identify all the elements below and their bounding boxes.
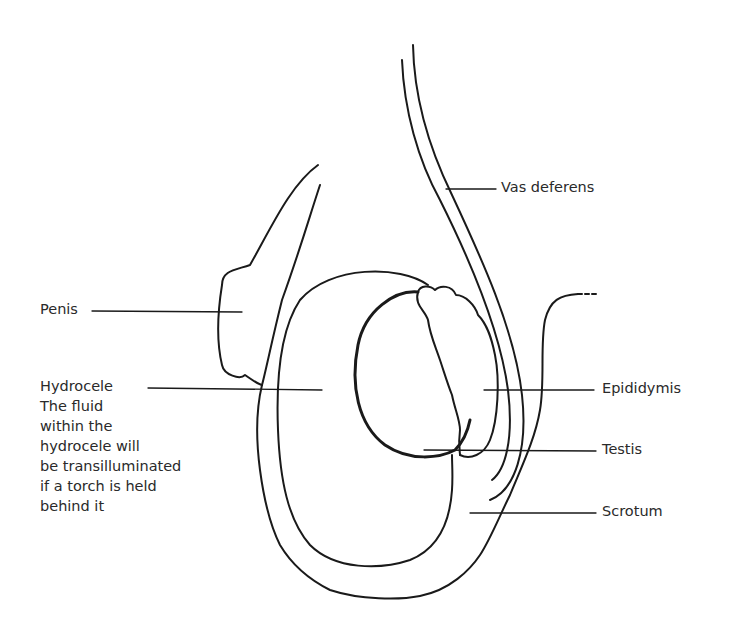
epididymis-shape (417, 286, 498, 456)
anatomy-drawing (0, 0, 735, 626)
label-epididymis: Epididymis (602, 378, 681, 398)
hydrocele-note-line: behind it (40, 496, 230, 516)
hydrocele-note-line: The fluid (40, 396, 230, 416)
scrotum-shape (257, 294, 598, 598)
leader-hydrocele (148, 388, 322, 390)
label-hydrocele: Hydrocele (40, 376, 113, 396)
label-testis: Testis (602, 439, 642, 459)
hydrocele-note-line: within the (40, 416, 230, 436)
hydrocele-note: The fluid within the hydrocele will be t… (40, 396, 230, 516)
hydrocele-note-line: be transilluminated (40, 456, 230, 476)
penis-shape (218, 165, 320, 385)
hydrocele-note-line: if a torch is held (40, 476, 230, 496)
label-vas-deferens: Vas deferens (501, 177, 594, 197)
label-scrotum: Scrotum (602, 501, 663, 521)
label-penis: Penis (40, 299, 78, 319)
testis-shape (355, 292, 470, 457)
hydrocele-note-line: hydrocele will (40, 436, 230, 456)
vas-deferens-shape (402, 45, 523, 500)
